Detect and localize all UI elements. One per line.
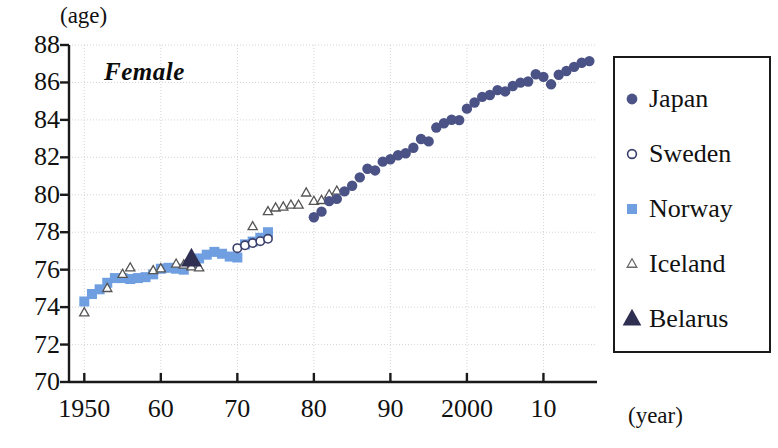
legend-marker-glyph [623,309,642,326]
data-point [546,79,556,89]
legend-item-iceland[interactable]: Iceland [615,237,769,291]
life-expectancy-scatter-chart: (age) (year) 88868482807876747270 195060… [0,0,778,448]
data-point [294,200,303,208]
legend-marker-glyph [627,259,637,268]
data-point [126,263,135,271]
data-point [248,222,257,230]
data-point [279,202,288,210]
series-group-annotation: Female [104,58,185,86]
data-point [232,252,242,262]
data-point [423,136,433,146]
legend-marker-glyph [627,204,637,214]
legend-item-label: Norway [649,196,733,222]
data-point [454,115,464,125]
legend-item-label: Belarus [649,306,728,332]
filled-circle-icon [615,86,649,112]
legend-item-label: Sweden [649,141,731,167]
data-point [408,143,418,153]
data-point [264,235,272,243]
data-point [302,188,311,196]
chart-legend: JapanSwedenNorwayIcelandBelarus [613,56,771,353]
data-point [370,165,380,175]
filled-triangle-icon [615,306,649,332]
data-point [355,172,365,182]
data-point [332,194,342,204]
gridlines [69,45,597,382]
open-triangle-icon [615,251,649,277]
legend-item-sweden[interactable]: Sweden [615,127,769,181]
data-point [347,181,357,191]
legend-item-japan[interactable]: Japan [615,72,769,126]
legend-item-label: Iceland [649,251,726,277]
data-point [316,206,326,216]
filled-square-icon [615,196,649,222]
legend-item-belarus[interactable]: Belarus [615,292,769,346]
data-point [584,56,594,66]
data-point [538,72,548,82]
legend-item-norway[interactable]: Norway [615,182,769,236]
legend-item-label: Japan [649,86,708,112]
legend-marker-glyph [627,94,638,105]
legend-marker-glyph [628,150,637,159]
axes [60,45,597,382]
data-point [523,76,533,86]
data-point [80,308,89,316]
series-japan [309,56,595,223]
open-circle-icon [615,141,649,167]
